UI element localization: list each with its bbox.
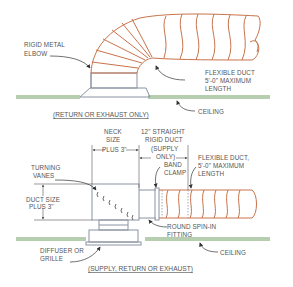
label-duct-size-2: PLUS 3"	[29, 203, 54, 210]
label-diffuser-2: GRILLE	[40, 255, 63, 262]
label-rigid-metal-elbow-1: RIGID METAL	[24, 41, 65, 48]
label-rigid-metal-elbow-2: ELBOW	[24, 50, 47, 57]
label-straight-4: ONLY)	[156, 153, 175, 161]
rigid-metal-elbow	[91, 18, 152, 73]
label-spin-in-1: ROUND SPIN-IN	[167, 223, 217, 230]
bottom-detail: NECK SIZE PLUS 3" 12" STRAIGHT RIGID DUC…	[16, 128, 270, 273]
label-straight-2: RIGID DUCT	[145, 136, 183, 143]
label-flex-bottom-3: LENGTH	[198, 170, 224, 177]
label-turning-vanes-1: TURNING	[31, 164, 60, 171]
caption-bottom: (SUPPLY, RETURN OR EXHAUST)	[88, 265, 193, 273]
label-band-clamp-2: CLAMP	[164, 169, 186, 176]
leaders-top	[50, 56, 195, 111]
plenum-box	[86, 184, 141, 245]
label-spin-in-2: FITTING	[167, 231, 192, 238]
duct-detail-diagram: RIGID METAL ELBOW FLEXIBLE DUCT 5'-0" MA…	[0, 0, 293, 287]
label-straight-3: (SUPPLY	[151, 145, 179, 153]
spin-in-dashed	[162, 190, 188, 218]
label-neck-1: NECK	[104, 128, 123, 135]
label-neck-3: PLUS 3"	[102, 146, 127, 153]
label-duct-size-1: DUCT SIZE	[26, 196, 60, 203]
diagram-svg: RIGID METAL ELBOW FLEXIBLE DUCT 5'-0" MA…	[0, 0, 293, 287]
ceiling-line-bottom	[16, 238, 270, 240]
label-flexible-duct-2: 5'-0" MAXIMUM	[205, 77, 251, 84]
label-flex-bottom-2: 5'-0" MAXIMUM	[198, 162, 244, 169]
label-band-clamp-1: BAND	[164, 161, 182, 168]
caption-top: (RETURN OR EXHAUST ONLY)	[53, 111, 149, 119]
top-detail: RIGID METAL ELBOW FLEXIBLE DUCT 5'-0" MA…	[16, 14, 270, 119]
flexible-duct-top	[140, 14, 260, 60]
rigid-metal-collar	[80, 73, 150, 97]
label-diffuser-1: DIFFUSER OR	[40, 247, 84, 254]
label-ceiling-bottom: CEILING	[220, 249, 246, 256]
turning-vanes	[97, 192, 133, 220]
label-flexible-duct-1: FLEXIBLE DUCT	[205, 69, 255, 76]
label-neck-2: SIZE	[106, 136, 120, 143]
label-flex-bottom-1: FLEXIBLE DUCT,	[198, 154, 249, 161]
flexible-duct-bottom	[159, 190, 257, 218]
label-turning-vanes-2: VANES	[33, 172, 54, 179]
label-flexible-duct-3: LENGTH	[205, 85, 231, 92]
rigid-straight-duct	[139, 188, 159, 220]
label-ceiling-top: CEILING	[198, 108, 224, 115]
label-straight-1: 12" STRAIGHT	[141, 128, 185, 135]
